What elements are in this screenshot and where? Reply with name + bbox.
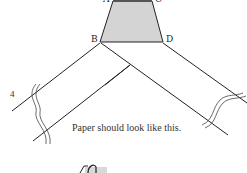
label-b: B [91,34,98,44]
step-number: 4 [10,89,15,99]
shaded-trapezoid [100,1,163,42]
label-d: D [166,34,173,44]
right-break-mark [202,93,246,128]
label-a: A [102,0,110,4]
next-step-preview-icon [80,165,107,173]
diagram-caption: Paper should look like this. [72,122,181,133]
label-c: C [155,0,162,4]
fold-line [105,65,130,85]
folding-diagram: A C B D [0,0,247,173]
